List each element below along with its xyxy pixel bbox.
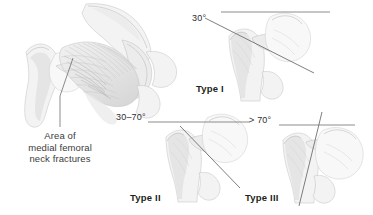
- femoral-neck-fracture-figure: Area of medial femoral neck fractures 30…: [0, 0, 373, 215]
- type-2-illustration: [148, 114, 250, 202]
- caption-line-2: medial femoral: [2, 142, 118, 154]
- anatomical-artwork: [0, 0, 373, 215]
- caption-line-1: Area of: [2, 130, 118, 142]
- type-3-angle-label: > 70°: [249, 115, 271, 125]
- caption-line-3: neck fractures: [2, 153, 118, 165]
- overview-caption: Area of medial femoral neck fractures: [2, 130, 118, 165]
- type-1-angle-label: 30°: [192, 13, 206, 23]
- type-3-label: Type III: [245, 192, 279, 203]
- type-3-illustration: [279, 112, 363, 206]
- hip-overview-illustration: [25, 4, 177, 128]
- type-2-angle-label: 30–70°: [116, 112, 146, 122]
- type-1-label: Type I: [196, 83, 224, 94]
- type-2-label: Type II: [130, 192, 161, 203]
